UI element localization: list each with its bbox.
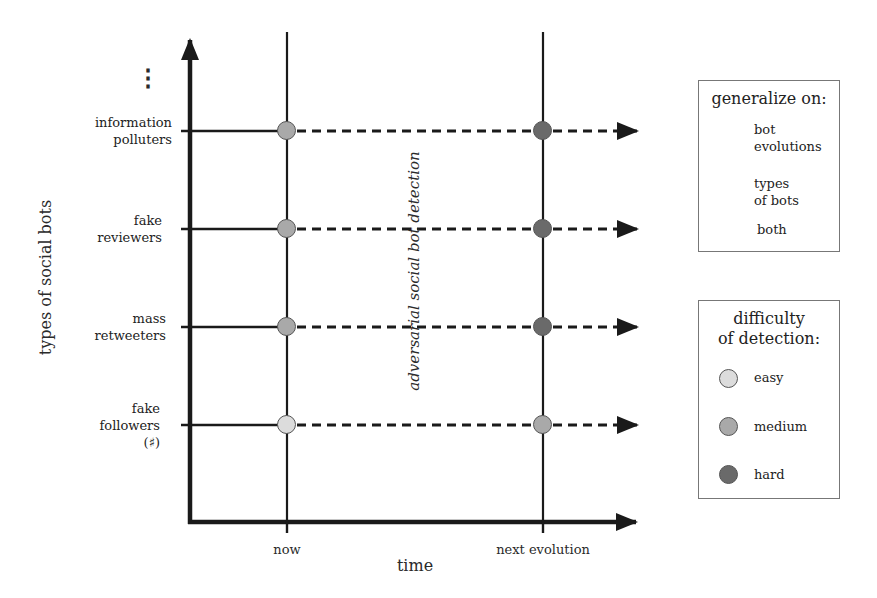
dot-information-polluters-next <box>533 121 552 140</box>
dot-mass-retweeters-next <box>533 317 552 336</box>
dot-fake-reviewers-next <box>533 219 552 238</box>
legend-dot-hard <box>719 465 738 484</box>
row-label-mass-retweeters: mass retweeters <box>6 310 166 344</box>
dot-information-polluters-now <box>277 121 296 140</box>
legend-difficulty-title: difficulty of detection: <box>699 309 839 349</box>
y-axis-label: types of social bots <box>36 193 55 363</box>
dot-fake-reviewers-now <box>277 219 296 238</box>
y-continuation: ⋮ <box>136 64 160 92</box>
legend-generalize-title: generalize on: <box>699 89 839 109</box>
x-axis-label: time <box>380 556 450 575</box>
legend-dot-easy <box>719 369 738 388</box>
row-label-fake-reviewers: fake reviewers <box>2 212 162 246</box>
legend-label-easy: easy <box>754 369 783 386</box>
legend-label-hard: hard <box>754 466 785 483</box>
row-evolution-arrows <box>553 131 637 425</box>
dot-fake-followers-now <box>277 415 296 434</box>
dot-fake-followers-next <box>533 415 552 434</box>
legend-generalize: generalize on: bot evolutions types of b… <box>698 80 840 252</box>
legend-label-medium: medium <box>754 418 807 435</box>
legend-item-both: both <box>757 221 787 238</box>
dot-mass-retweeters-now <box>277 317 296 336</box>
x-tick-now: now <box>262 542 312 557</box>
legend-dot-medium <box>719 417 738 436</box>
row-label-information-polluters: information polluters <box>12 114 172 148</box>
legend-item-types-of-bots: types of bots <box>754 175 799 209</box>
center-label: adversarial social bot detection <box>405 131 423 411</box>
legend-item-bot-evolutions: bot evolutions <box>754 121 822 155</box>
legend-difficulty: difficulty of detection: easy medium har… <box>698 300 840 499</box>
row-label-fake-followers: fake followers (♯) <box>0 400 160 451</box>
row-lines <box>181 131 287 425</box>
x-tick-next-evolution: next evolution <box>473 542 613 557</box>
